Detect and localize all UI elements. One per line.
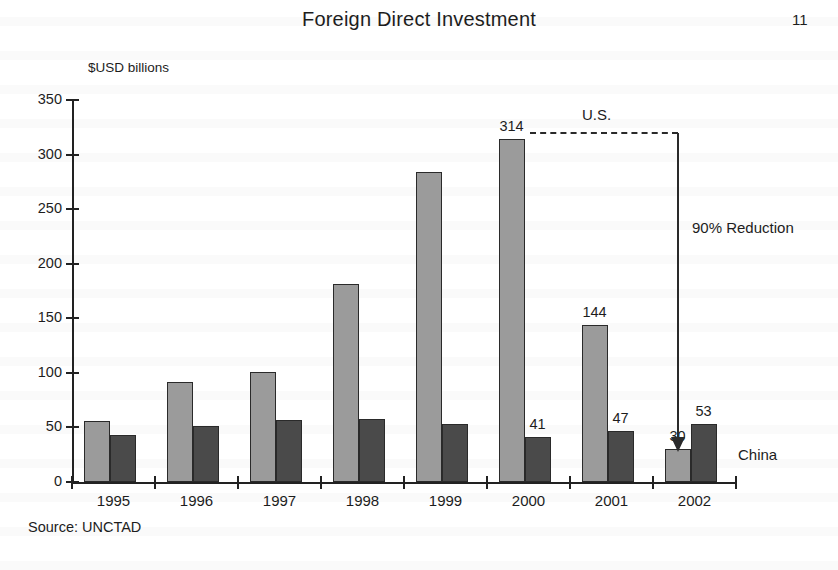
bar-us-2002	[665, 449, 691, 482]
reduction-arrow-shaft	[677, 133, 679, 443]
x-axis-tick	[569, 476, 571, 489]
x-axis-tick	[154, 476, 156, 489]
y-axis-tick	[66, 317, 79, 319]
x-axis-tick	[735, 476, 737, 489]
y-axis-tick	[66, 99, 79, 101]
reduction-callout-label: 90% Reduction	[692, 219, 794, 236]
bar-china-1995	[110, 435, 136, 482]
x-axis-category-label: 2002	[665, 492, 725, 509]
bar-value-label: 144	[570, 304, 620, 320]
bar-us-2001	[582, 325, 608, 482]
x-axis-category-label: 1995	[84, 492, 144, 509]
y-axis-tick	[66, 263, 79, 265]
x-axis-category-label: 1998	[333, 492, 393, 509]
us-series-label: U.S.	[582, 106, 611, 123]
y-axis-tick	[66, 154, 79, 156]
bar-value-label: 47	[596, 410, 646, 426]
bar-value-label: 314	[487, 118, 537, 134]
bar-china-1996	[193, 426, 219, 482]
x-axis-tick	[403, 476, 405, 489]
x-axis-tick	[320, 476, 322, 489]
bar-us-1996	[167, 382, 193, 482]
bar-us-1995	[84, 421, 110, 482]
bar-china-2001	[608, 431, 634, 482]
x-axis-tick	[486, 476, 488, 489]
x-axis-tick	[237, 476, 239, 489]
china-series-label: China	[738, 446, 777, 463]
y-axis-tick	[66, 372, 79, 374]
source-note: Source: UNCTAD	[28, 519, 141, 535]
bar-china-2000	[525, 437, 551, 482]
bar-us-1998	[333, 284, 359, 482]
x-axis-category-label: 1997	[250, 492, 310, 509]
y-axis-tick	[66, 426, 79, 428]
x-axis-category-label: 2000	[499, 492, 559, 509]
y-axis-tick-label: 0	[22, 473, 62, 489]
y-axis-tick-label: 150	[22, 309, 62, 325]
bar-china-1999	[442, 424, 468, 482]
x-axis-category-label: 2001	[582, 492, 642, 509]
bar-china-1997	[276, 420, 302, 482]
y-axis-tick-label: 100	[22, 364, 62, 380]
x-axis-category-label: 1999	[416, 492, 476, 509]
y-axis-tick-label: 300	[22, 146, 62, 162]
bar-value-label: 53	[679, 403, 729, 419]
y-axis-tick-label: 50	[22, 418, 62, 434]
y-axis-tick-label: 250	[22, 200, 62, 216]
y-axis-unit-label: $USD billions	[88, 60, 169, 75]
us-dashed-connector-line	[530, 132, 678, 134]
x-axis-category-label: 1996	[167, 492, 227, 509]
bar-value-label: 41	[513, 416, 563, 432]
bar-us-1999	[416, 172, 442, 482]
reduction-arrow-head-icon	[671, 437, 685, 452]
bar-us-1997	[250, 372, 276, 482]
chart-plot-area: $USD billions 350300250200150100500 1995…	[0, 0, 838, 570]
y-axis-tick-label: 350	[22, 91, 62, 107]
x-axis-tick	[71, 476, 73, 489]
bar-china-1998	[359, 419, 385, 482]
y-axis-tick-label: 200	[22, 255, 62, 271]
y-axis-tick	[66, 208, 79, 210]
x-axis-tick	[652, 476, 654, 489]
